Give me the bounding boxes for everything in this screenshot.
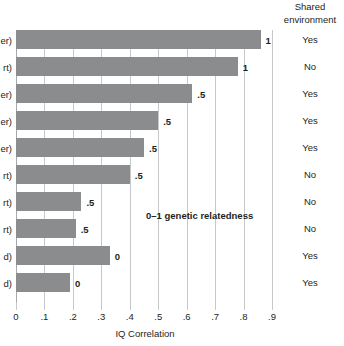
shared-environment-value: Yes [276,111,344,130]
bar-value-label: .5 [135,169,143,180]
bar [16,84,192,103]
bar-row: d)0 [16,273,272,292]
bar [16,138,144,157]
bar-row: rt).5 [16,219,272,238]
category-label: rt) [3,169,12,180]
bar-value-label: 0 [75,277,80,288]
bar-row: er).5 [16,111,272,130]
bar [16,165,130,184]
category-label: er) [0,88,12,99]
bar-row: rt)1 [16,57,272,76]
shared-environment-value: Yes [276,273,344,292]
category-label: er) [0,142,12,153]
bar-value-label: 1 [243,61,248,72]
x-tick-mark [272,302,273,310]
genetic-relatedness-annotation: 0–1 genetic relatedness [146,210,253,221]
x-tick-label: .5 [146,311,170,322]
bar-row: rt).5 [16,165,272,184]
category-label: d) [4,277,12,288]
shared-environment-value: Yes [276,30,344,49]
x-tick-mark [215,302,216,310]
x-tick-mark [187,302,188,310]
iq-correlation-bar-chart: Shared environment er)1rt)1er).5er).5er)… [0,0,344,346]
bar [16,192,81,211]
bar-value-label: .5 [197,88,205,99]
bar [16,30,261,49]
shared-environment-value: Yes [276,84,344,103]
x-tick-label: 0 [4,311,28,322]
bar [16,246,110,265]
shared-environment-value: No [276,57,344,76]
bar-row: er).5 [16,84,272,103]
x-tick-label: .3 [89,311,113,322]
category-label: rt) [3,61,12,72]
x-axis-title: IQ Correlation [0,328,290,339]
category-label: rt) [3,196,12,207]
bar-value-label: 1 [266,34,271,45]
bar-value-label: 0 [115,250,120,261]
bar-row: er).5 [16,138,272,157]
bar-value-label: .5 [81,223,89,234]
bar-value-label: .5 [163,115,171,126]
bar-value-label: .5 [86,196,94,207]
x-tick-label: .7 [203,311,227,322]
shared-environment-header-line2: environment [276,14,344,27]
category-label: d) [4,250,12,261]
x-tick-label: .6 [175,311,199,322]
x-tick-mark [244,302,245,310]
shared-environment-header: Shared environment [276,1,344,26]
bar [16,219,76,238]
x-tick-mark [101,302,102,310]
bar [16,111,158,130]
shared-environment-value: No [276,192,344,211]
x-tick-mark [158,302,159,310]
bar [16,273,70,292]
x-tick-label: .4 [118,311,142,322]
bar-row: er)1 [16,30,272,49]
category-label: er) [0,34,12,45]
gridline-p9 [272,30,273,302]
x-tick-mark [73,302,74,310]
x-tick-mark [16,302,17,310]
category-label: er) [0,115,12,126]
shared-environment-value: No [276,219,344,238]
shared-environment-value: Yes [276,246,344,265]
x-tick-label: .9 [260,311,284,322]
x-tick-label: .2 [61,311,85,322]
bar-value-label: .5 [149,142,157,153]
x-tick-mark [44,302,45,310]
shared-environment-header-line1: Shared [276,1,344,14]
x-tick-label: .1 [32,311,56,322]
shared-environment-value: Yes [276,138,344,157]
bar-row: d)0 [16,246,272,265]
bar [16,57,238,76]
category-label: rt) [3,223,12,234]
x-tick-mark [130,302,131,310]
x-tick-label: .8 [232,311,256,322]
plot-area: er)1rt)1er).5er).5er).5rt).5rt).5rt).5d)… [16,30,272,302]
bar-row: rt).5 [16,192,272,211]
shared-environment-value: No [276,165,344,184]
